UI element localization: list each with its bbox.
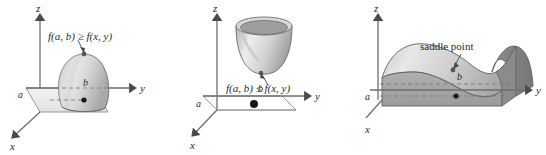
point-ab — [250, 100, 258, 108]
x-axis — [14, 112, 40, 136]
panel-absolute-maximum: z y x a — [0, 0, 182, 155]
y-axis-label: y — [139, 82, 145, 94]
label-a: a — [365, 91, 370, 102]
label-b: b — [83, 77, 88, 88]
x-axis-label: x — [9, 140, 15, 152]
panel-absolute-minimum: z y x a — [182, 0, 364, 155]
y-axis-label: y — [535, 84, 541, 96]
label-a: a — [196, 98, 201, 109]
z-axis-label: z — [35, 2, 41, 14]
multivariable-extrema-figure: z y x a — [0, 0, 546, 155]
x-axis — [194, 110, 217, 134]
x-axis — [366, 100, 382, 118]
y-axis-label: y — [314, 90, 320, 102]
callout-max-inequality: f(a, b) ≥ f(x, y) — [48, 30, 112, 43]
x-axis-label: x — [189, 139, 195, 151]
panel-saddle-point: z y x a — [364, 0, 546, 155]
label-b: b — [258, 83, 263, 94]
z-axis-label: z — [212, 2, 218, 14]
point-ab — [453, 93, 458, 98]
label-a: a — [18, 89, 23, 100]
bowl-surface — [236, 17, 292, 74]
x-axis-label: x — [364, 123, 370, 135]
label-b: b — [457, 71, 462, 82]
callout-saddle-point: saddle point — [420, 40, 473, 52]
z-axis-label: z — [373, 2, 379, 14]
point-ab — [81, 97, 86, 102]
